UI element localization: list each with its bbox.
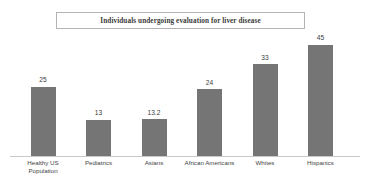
bar-group: 45Hispanics bbox=[299, 0, 343, 156]
bar-rect[interactable] bbox=[197, 89, 222, 156]
x-axis-category-label: Healthy USPopulation bbox=[17, 159, 69, 174]
bar-value-label: 24 bbox=[206, 80, 213, 87]
bar-group: 24African Americans bbox=[188, 0, 232, 156]
bar-rect[interactable] bbox=[86, 120, 111, 156]
bar-stack: 13 bbox=[77, 35, 121, 156]
bar-value-label: 25 bbox=[39, 77, 46, 84]
bar-rect[interactable] bbox=[31, 87, 56, 156]
bar-stack: 45 bbox=[299, 35, 343, 156]
bar-rect[interactable] bbox=[253, 64, 278, 156]
bar-value-label: 45 bbox=[317, 35, 324, 42]
bar-value-label: 13.2 bbox=[148, 110, 161, 117]
bar-value-label: 33 bbox=[261, 55, 268, 62]
bar-rect[interactable] bbox=[142, 119, 167, 156]
bar-group: 25Healthy USPopulation bbox=[21, 0, 65, 156]
bar-value-label: 13 bbox=[95, 110, 102, 117]
x-axis-category-label: Whites bbox=[239, 159, 291, 167]
x-axis-category-label: African Americans bbox=[184, 159, 236, 167]
bar-stack: 33 bbox=[243, 35, 287, 156]
bar-stack: 24 bbox=[188, 35, 232, 156]
bar-rect[interactable] bbox=[308, 45, 333, 156]
x-axis-line bbox=[10, 156, 360, 157]
bar-group: 13.2Asians bbox=[132, 0, 176, 156]
x-axis-category-label: Asians bbox=[128, 159, 180, 167]
bar-group: 33Whites bbox=[243, 0, 287, 156]
plot-area: 25Healthy USPopulation13Pediatrics13.2As… bbox=[0, 0, 369, 191]
bar-stack: 13.2 bbox=[132, 35, 176, 156]
bar-group: 13Pediatrics bbox=[77, 0, 121, 156]
x-axis-category-label: Hispanics bbox=[295, 159, 347, 167]
x-axis-category-label: Pediatrics bbox=[73, 159, 125, 167]
bar-stack: 25 bbox=[21, 35, 65, 156]
bar-chart-figure: Individuals undergoing evaluation for li… bbox=[0, 0, 369, 191]
